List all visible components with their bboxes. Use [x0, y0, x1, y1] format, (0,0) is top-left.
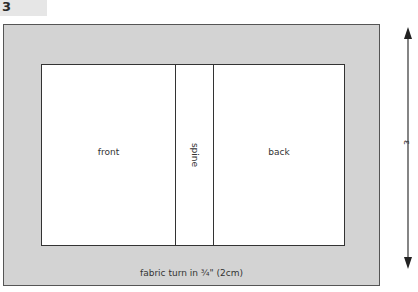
front-panel-label: front: [42, 147, 175, 157]
book-board-layout: front spine back: [41, 64, 345, 246]
step-number: 3: [2, 0, 11, 14]
step-badge: 3: [0, 0, 47, 16]
fabric-turn-label: fabric turn in ¾" (2cm): [0, 268, 383, 278]
back-panel-label: back: [214, 147, 344, 157]
spine-panel: spine: [175, 64, 214, 246]
height-dimension-arrow-icon: [402, 27, 414, 269]
spine-panel-label: spine: [190, 142, 200, 166]
height-dimension-label: ε: [402, 140, 412, 145]
